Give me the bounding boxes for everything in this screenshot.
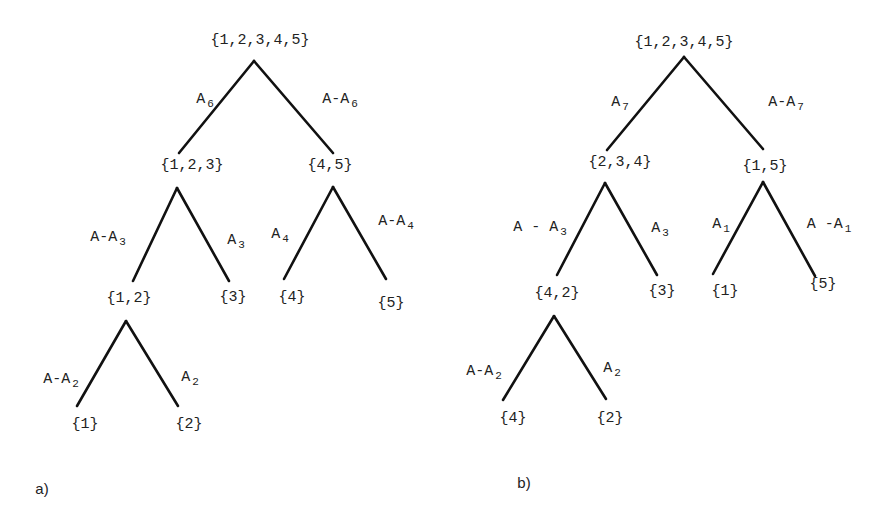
edge-label: A7 xyxy=(611,94,629,113)
edge-label: A-A6 xyxy=(322,91,358,110)
edge-label: A4 xyxy=(271,226,289,245)
tree-b-node: {1} xyxy=(711,283,738,300)
edge-label-subscript: 4 xyxy=(282,233,289,245)
edge-label-base: A-A xyxy=(322,91,349,108)
tree-b-edge xyxy=(684,57,763,149)
edge-label-subscript: 4 xyxy=(407,220,414,232)
edge-label-subscript: 2 xyxy=(495,370,502,382)
edge-label-base: A-A xyxy=(90,229,117,246)
tree-a-node: {1,2,3,4,5} xyxy=(210,32,309,49)
tree-a-node: {3} xyxy=(219,289,246,306)
edge-label-subscript: 2 xyxy=(614,367,621,379)
tree-a-node: {1} xyxy=(71,416,98,433)
edge-label-base: A xyxy=(603,360,612,377)
edge-label-subscript: 6 xyxy=(207,98,214,110)
edge-label-base: A-A xyxy=(378,213,405,230)
edge-label: A2 xyxy=(603,360,621,379)
edge-label-subscript: 7 xyxy=(797,101,804,113)
edge-label: A-A2 xyxy=(43,371,79,390)
tree-b-node: {3} xyxy=(648,283,675,300)
edge-label: A - A3 xyxy=(513,219,567,238)
tree-edges xyxy=(0,0,881,530)
tree-b-caption: b) xyxy=(517,474,530,491)
tree-b-node: {4} xyxy=(499,410,526,427)
tree-a-edge xyxy=(126,321,178,406)
edge-label: A6 xyxy=(196,91,214,110)
tree-a-caption: a) xyxy=(35,480,48,497)
tree-a-edge xyxy=(77,321,126,406)
edge-label-base: A -A xyxy=(807,216,843,233)
tree-b-node: {2} xyxy=(596,410,623,427)
edge-label-base: A xyxy=(271,226,280,243)
tree-a-edge xyxy=(333,187,386,279)
edge-label-base: A - A xyxy=(513,219,558,236)
edge-label: A3 xyxy=(227,232,245,251)
tree-b-node: {2,3,4} xyxy=(588,154,651,171)
edge-label-subscript: 3 xyxy=(238,239,245,251)
tree-a-node: {2} xyxy=(175,416,202,433)
tree-b-edge xyxy=(554,316,606,399)
edge-label-base: A xyxy=(196,91,205,108)
tree-b-node: {1,2,3,4,5} xyxy=(634,34,733,51)
tree-b-node: {5} xyxy=(809,276,836,293)
tree-a-node: {1,2} xyxy=(106,290,151,307)
tree-a-edge xyxy=(179,61,254,153)
edge-label: A-A4 xyxy=(378,213,414,232)
tree-a-edge xyxy=(133,188,177,281)
edge-label: A-A2 xyxy=(466,363,502,382)
edge-label: A-A3 xyxy=(90,229,126,248)
tree-a-node: {5} xyxy=(377,295,404,312)
edge-label-subscript: 1 xyxy=(723,223,730,235)
tree-a-edge xyxy=(284,187,333,279)
edge-label: A-A7 xyxy=(768,94,804,113)
edge-label-base: A xyxy=(611,94,620,111)
edge-label-base: A-A xyxy=(768,94,795,111)
edge-label-base: A xyxy=(712,216,721,233)
edge-label-base: A-A xyxy=(466,363,493,380)
tree-a-edge xyxy=(254,61,333,153)
edge-label-base: A xyxy=(651,220,660,237)
edge-label-subscript: 6 xyxy=(351,98,358,110)
edge-label-base: A xyxy=(227,232,236,249)
edge-label-subscript: 7 xyxy=(622,101,629,113)
edge-label: A1 xyxy=(712,216,730,235)
figure-canvas: A6A-A6A-A3A3A4A-A4A-A2A2{1,2,3,4,5}{1,2,… xyxy=(0,0,881,530)
tree-b-node: {1,5} xyxy=(742,158,787,175)
edge-label-subscript: 3 xyxy=(560,226,567,238)
tree-b-edge xyxy=(605,183,657,275)
edge-label-base: A-A xyxy=(43,371,70,388)
tree-b-node: {4,2} xyxy=(534,285,579,302)
edge-label-subscript: 2 xyxy=(192,376,199,388)
edge-label-subscript: 2 xyxy=(72,378,79,390)
tree-a-node: {4,5} xyxy=(307,157,352,174)
tree-a-edge xyxy=(177,188,229,281)
tree-b-edge xyxy=(503,316,554,400)
tree-a-node: {1,2,3} xyxy=(160,157,223,174)
edge-label-subscript: 3 xyxy=(662,227,669,239)
tree-a-node: {4} xyxy=(278,289,305,306)
edge-label-base: A xyxy=(181,369,190,386)
edge-label: A -A1 xyxy=(807,216,852,235)
edge-label-subscript: 1 xyxy=(845,223,852,235)
edge-label: A2 xyxy=(181,369,199,388)
edge-label: A3 xyxy=(651,220,669,239)
edge-label-subscript: 3 xyxy=(119,236,126,248)
